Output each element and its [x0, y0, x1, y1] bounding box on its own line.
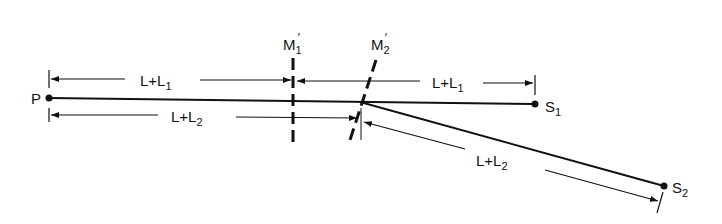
point-s2: [661, 183, 668, 190]
label-m2: M2′: [371, 31, 390, 56]
label-m1: M1′: [283, 31, 302, 56]
label-dim-diagonal: L+L2: [476, 152, 508, 172]
point-s1: [532, 101, 539, 108]
label-dim-top-left: L+L1: [140, 72, 172, 92]
label-s1: S1: [545, 98, 561, 118]
label-p: P: [31, 90, 41, 107]
dim-bottom-left-b: [236, 117, 357, 118]
beam-m2-s2: [360, 102, 664, 186]
mirror-m2: [350, 60, 376, 140]
point-p: [46, 95, 53, 102]
label-s2: S2: [672, 179, 688, 199]
interferometer-diagram: P S1 S2 M1′ M2′ L+L1 L+L1 L+L2 L+L2: [0, 0, 722, 224]
label-dim-top-right: L+L1: [432, 74, 464, 94]
dim-diagonal-b: [545, 170, 658, 201]
label-dim-bottom-left: L+L2: [171, 108, 203, 128]
